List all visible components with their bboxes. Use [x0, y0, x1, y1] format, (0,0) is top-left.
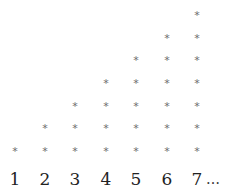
asterisk-mark: * — [160, 77, 174, 91]
asterisk-mark: * — [99, 122, 113, 136]
asterisk-mark: * — [190, 145, 204, 159]
asterisk-mark: * — [68, 122, 82, 136]
asterisk-mark: * — [129, 100, 143, 114]
asterisk-mark: * — [99, 77, 113, 91]
asterisk-mark: * — [68, 100, 82, 114]
asterisk-mark: * — [99, 100, 113, 114]
column-label: 5 — [126, 169, 146, 189]
staircase-diagram: … *1**2***3****4*****5******6*******7 — [0, 0, 242, 190]
asterisk-mark: * — [99, 145, 113, 159]
column-label: 6 — [157, 169, 177, 189]
column-label: 7 — [187, 169, 207, 189]
asterisk-mark: * — [190, 122, 204, 136]
asterisk-mark: * — [129, 145, 143, 159]
asterisk-mark: * — [190, 100, 204, 114]
asterisk-mark: * — [68, 145, 82, 159]
asterisk-mark: * — [160, 122, 174, 136]
asterisk-mark: * — [38, 145, 52, 159]
column-label: 2 — [35, 169, 55, 189]
asterisk-mark: * — [160, 54, 174, 68]
column-label: 3 — [65, 169, 85, 189]
asterisk-mark: * — [160, 100, 174, 114]
column-label: 4 — [96, 169, 116, 189]
asterisk-mark: * — [38, 122, 52, 136]
asterisk-mark: * — [190, 54, 204, 68]
asterisk-mark: * — [190, 77, 204, 91]
asterisk-mark: * — [190, 9, 204, 23]
asterisk-mark: * — [160, 145, 174, 159]
asterisk-mark: * — [129, 122, 143, 136]
asterisk-mark: * — [160, 32, 174, 46]
asterisk-mark: * — [129, 77, 143, 91]
asterisk-mark: * — [8, 145, 22, 159]
ellipsis: … — [206, 169, 221, 189]
asterisk-mark: * — [129, 54, 143, 68]
column-label: 1 — [5, 169, 25, 189]
asterisk-mark: * — [190, 32, 204, 46]
